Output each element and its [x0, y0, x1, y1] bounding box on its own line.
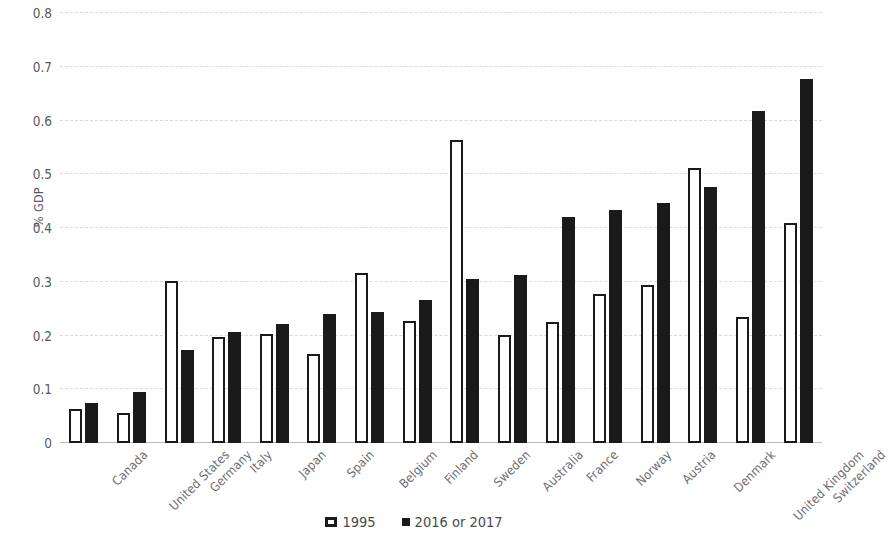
x-axis-tick-label: Finland	[441, 447, 481, 487]
bar-group	[66, 13, 101, 443]
solid-square-marker	[402, 518, 410, 526]
bar	[657, 203, 670, 443]
bar	[800, 79, 813, 443]
bar-group	[590, 13, 625, 443]
x-axis-tick-label: Sweden	[490, 447, 533, 490]
bar-group	[162, 13, 197, 443]
bar	[593, 294, 606, 443]
bar-group	[209, 13, 244, 443]
bar	[117, 413, 130, 443]
bar	[419, 300, 432, 443]
y-axis-tick-label: 0	[8, 435, 52, 451]
bar	[212, 337, 225, 443]
bar	[165, 281, 178, 443]
x-axis-tick-label: France	[583, 447, 621, 485]
bar-group	[352, 13, 387, 443]
bar	[371, 312, 384, 443]
y-axis-tick-label: 0.2	[8, 328, 52, 344]
bar-group	[257, 13, 292, 443]
x-axis-tick-label: Belgium	[395, 447, 439, 491]
bar	[355, 273, 368, 443]
bar	[307, 354, 320, 443]
y-axis-tick-label: 0.1	[8, 381, 52, 397]
bar-group	[304, 13, 339, 443]
y-axis-tick-label: 0.8	[8, 5, 52, 21]
x-axis-tick-label: Australia	[540, 447, 587, 494]
bar	[688, 168, 701, 443]
legend-item-label: 2016 or 2017	[415, 514, 503, 530]
y-axis-tick-label: 0.3	[8, 274, 52, 290]
x-axis-tick-label: Denmark	[730, 447, 778, 495]
bar	[133, 392, 146, 443]
x-axis-tick-label: Italy	[246, 447, 275, 476]
x-axis-tick-label: Norway	[633, 447, 675, 489]
legend-item-label: 1995	[342, 514, 375, 530]
bar-group	[733, 13, 768, 443]
bar-group	[400, 13, 435, 443]
bar	[181, 350, 194, 443]
chart-legend: 19952016 or 2017	[0, 514, 828, 530]
bar	[228, 332, 241, 443]
bar	[69, 409, 82, 443]
bar-group	[781, 13, 816, 443]
bar	[546, 322, 559, 443]
legend-item[interactable]: 2016 or 2017	[402, 514, 503, 530]
bar	[403, 321, 416, 443]
bar	[609, 210, 622, 443]
legend-item[interactable]: 1995	[325, 514, 375, 530]
bar	[498, 335, 511, 443]
bar-group	[543, 13, 578, 443]
bar	[784, 223, 797, 443]
bar	[562, 217, 575, 443]
bar-group	[447, 13, 482, 443]
bar	[450, 140, 463, 443]
x-axis-tick-label: Japan	[296, 447, 329, 480]
bar	[736, 317, 749, 443]
y-axis-tick-label: 0.6	[8, 113, 52, 129]
bar-group	[495, 13, 530, 443]
bar	[514, 275, 527, 443]
y-axis-tick-label: 0.4	[8, 220, 52, 236]
bar-series-container	[60, 13, 822, 443]
bar	[323, 314, 336, 443]
y-axis-tick-label: 0.7	[8, 59, 52, 75]
bar	[260, 334, 273, 443]
bar-group	[638, 13, 673, 443]
plot-area	[60, 13, 822, 443]
bar	[466, 279, 479, 443]
open-square-marker	[325, 517, 337, 527]
bar	[752, 111, 765, 443]
y-axis-tick-label: 0.5	[8, 166, 52, 182]
bar-group	[685, 13, 720, 443]
y-axis-tick-labels: 00.10.20.30.40.50.60.70.8	[0, 13, 52, 443]
x-axis-tick-label: Spain	[343, 447, 377, 481]
bar	[704, 187, 717, 443]
bar-group	[114, 13, 149, 443]
bar	[276, 324, 289, 443]
x-axis-tick-label: Austria	[679, 447, 719, 487]
bar	[85, 403, 98, 443]
x-axis-tick-label: Canada	[109, 447, 151, 489]
bar	[641, 285, 654, 443]
x-axis-tick-labels: CanadaUnited StatesGermanyItalyJapanSpai…	[60, 443, 822, 513]
